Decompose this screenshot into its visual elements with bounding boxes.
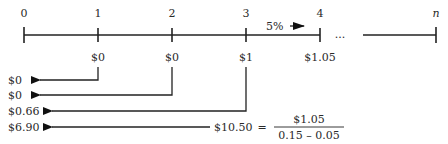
cash-flow-3: $1 — [239, 51, 253, 64]
discount-arrow-3 — [52, 67, 246, 111]
cash-flow-2: $0 — [165, 51, 179, 64]
formula-numerator: $1.05 — [293, 113, 325, 126]
equals-sign: = — [257, 121, 266, 134]
terminal-value: $10.50 — [214, 121, 253, 134]
discount-arrow-1 — [40, 67, 98, 80]
present-value-1: $0 — [8, 74, 22, 87]
present-value-3: $0.66 — [8, 105, 40, 118]
period-label-4: 4 — [317, 7, 324, 20]
period-label-0: 0 — [21, 7, 28, 20]
period-label-3: 3 — [243, 7, 250, 20]
cash-flow-timeline-diagram: 0 1 2 3 4 n ... 5% $0 $0 $1 $1.05 $0 $0 … — [0, 0, 448, 144]
period-label-n: n — [432, 7, 439, 20]
growth-rate-label: 5% — [266, 20, 283, 33]
formula-denominator: 0.15 – 0.05 — [278, 129, 339, 142]
cash-flow-1: $0 — [91, 51, 105, 64]
present-value-terminal: $6.90 — [8, 121, 40, 134]
present-value-2: $0 — [8, 89, 22, 102]
discount-arrow-2 — [40, 67, 172, 95]
period-label-2: 2 — [169, 7, 176, 20]
timeline-ellipsis: ... — [335, 28, 346, 41]
period-label-1: 1 — [95, 7, 102, 20]
cash-flow-4: $1.05 — [304, 51, 336, 64]
